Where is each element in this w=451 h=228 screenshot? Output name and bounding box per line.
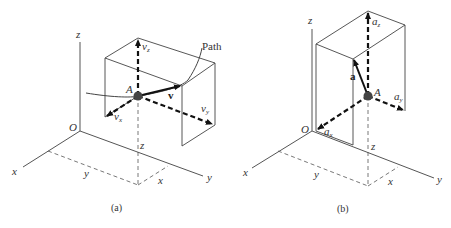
ay-label: ay (394, 90, 404, 104)
az-label: az (372, 15, 381, 29)
vy-label: vy (201, 102, 210, 116)
kinematics-diagram: z O x y A Path v vz vx vy z y x (a) (0, 0, 451, 228)
vz-label: vz (142, 40, 150, 54)
z-axis-label: z (307, 14, 313, 26)
velocity-vector (138, 86, 180, 96)
vx-label: vx (114, 110, 123, 124)
path-label: Path (202, 40, 222, 52)
velocity-label: v (168, 89, 174, 101)
y-coord-label: y (83, 167, 89, 179)
origin-label: O (69, 121, 77, 133)
y-projection (48, 151, 138, 185)
z-coord-label: z (139, 139, 145, 151)
x-axis-label: x (242, 166, 248, 178)
x-projection (138, 166, 168, 185)
y-axis-label: y (436, 173, 442, 185)
panel-b: z O x y A a az ax ay z y x (b) (242, 11, 442, 215)
x-coord-label: x (157, 174, 163, 186)
caption-a: (a) (111, 202, 122, 214)
origin-label: O (301, 123, 309, 135)
x-axis-label: x (11, 165, 17, 177)
y-axis (80, 131, 203, 176)
y-coord-label: y (313, 168, 319, 180)
panel-a: z O x y A Path v vz vx vy z y x (a) (11, 28, 222, 214)
ax-label: ax (324, 125, 334, 139)
point-a-label: A (125, 83, 133, 95)
y-axis-label: y (206, 171, 212, 183)
z-axis-label: z (75, 28, 81, 40)
x-axis (23, 131, 80, 167)
x-axis (252, 131, 312, 168)
z-coord-label: z (370, 140, 376, 152)
point-a-dot (134, 92, 143, 101)
caption-b: (b) (337, 203, 349, 215)
x-projection (368, 167, 398, 186)
x-coord-label: x (387, 175, 393, 187)
point-a-label: A (373, 86, 381, 98)
acceleration-vector (354, 60, 368, 96)
y-projection (278, 151, 368, 186)
acceleration-label: a (350, 70, 356, 82)
point-a-dot (364, 92, 373, 101)
